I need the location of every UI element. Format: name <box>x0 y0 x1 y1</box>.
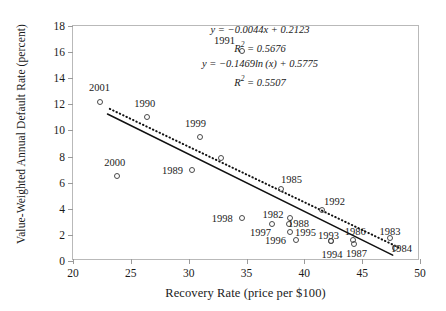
data-point-1989 <box>189 167 195 173</box>
equation-line-2: R2 = 0.5676 <box>185 37 335 56</box>
x-tick-label-20: 20 <box>67 267 79 279</box>
data-point-1996 <box>293 237 299 243</box>
x-tick-label-35: 35 <box>241 267 253 279</box>
data-point-label-1992: 1992 <box>324 195 345 206</box>
y-tick-2 <box>68 235 73 236</box>
y-tick-label-0: 0 <box>59 255 65 267</box>
data-point-1995 <box>287 229 293 235</box>
y-tick-label-2: 2 <box>59 229 65 241</box>
data-point-label-1995: 1995 <box>295 227 316 238</box>
x-tick-20 <box>73 259 74 264</box>
data-point-1987 <box>351 241 357 247</box>
y-tick-label-8: 8 <box>59 151 65 163</box>
data-point-label-1998: 1998 <box>212 212 233 223</box>
x-tick-30 <box>189 259 190 264</box>
y-tick-label-16: 16 <box>54 46 66 58</box>
y-tick-label-12: 12 <box>54 98 66 110</box>
equation-line-1: y = −0.0044x + 0.2123 <box>185 22 335 37</box>
equation-line-3: y = −0.1469ln (x) + 0.5775 <box>185 56 335 71</box>
data-point-1985 <box>278 186 284 192</box>
x-axis-title: Recovery Rate (price per $100) <box>72 286 419 301</box>
data-point-1994 <box>328 238 334 244</box>
x-tick-45 <box>362 259 363 264</box>
data-point-1990 <box>144 114 150 120</box>
data-point-label-1996: 1996 <box>265 235 286 246</box>
x-tick-35 <box>247 259 248 264</box>
x-tick-label-45: 45 <box>356 267 368 279</box>
equations-annotation: y = −0.0044x + 0.2123R2 = 0.5676y = −0.1… <box>185 22 335 89</box>
y-tick-label-4: 4 <box>59 203 65 215</box>
y-tick-label-6: 6 <box>59 177 65 189</box>
data-point-label-1994: 1994 <box>322 249 343 260</box>
x-tick-25 <box>131 259 132 264</box>
x-tick-label-25: 25 <box>125 267 137 279</box>
data-point-label-1986: 1986 <box>345 225 366 236</box>
y-tick-8 <box>68 157 73 158</box>
y-tick-label-14: 14 <box>54 72 66 84</box>
scatter-plot-figure: Value-Weighted Annual Default Rate (perc… <box>0 0 446 311</box>
data-point-label-1987: 1987 <box>346 248 367 259</box>
x-tick-label-50: 50 <box>414 267 426 279</box>
data-point-2001 <box>97 99 103 105</box>
y-tick-4 <box>68 209 73 210</box>
x-tick-50 <box>420 259 421 264</box>
y-tick-10 <box>68 130 73 131</box>
y-tick-18 <box>68 26 73 27</box>
data-point-label-1983: 1983 <box>379 225 400 236</box>
data-point-label-2000: 2000 <box>104 156 125 167</box>
data-point-label-1984: 1984 <box>391 242 412 253</box>
data-point-1999 <box>197 134 203 140</box>
y-axis-title: Value-Weighted Annual Default Rate (perc… <box>15 9 27 259</box>
data-point <box>218 155 224 161</box>
x-tick-label-40: 40 <box>299 267 311 279</box>
data-point-label-1989: 1989 <box>162 164 183 175</box>
data-point-label-2001: 2001 <box>89 82 110 93</box>
y-tick-label-18: 18 <box>54 20 66 32</box>
data-point-1992 <box>319 207 325 213</box>
data-point-label-1985: 1985 <box>281 173 302 184</box>
y-tick-14 <box>68 78 73 79</box>
data-point-2000 <box>114 173 120 179</box>
data-point-1998 <box>239 215 245 221</box>
x-tick-label-30: 30 <box>183 267 195 279</box>
y-tick-label-10: 10 <box>54 124 66 136</box>
equation-line-4: R2 = 0.5507 <box>185 71 335 90</box>
y-tick-16 <box>68 52 73 53</box>
y-tick-12 <box>68 104 73 105</box>
data-point-label-1982: 1982 <box>263 209 284 220</box>
data-point-label-1999: 1999 <box>185 117 206 128</box>
y-tick-6 <box>68 183 73 184</box>
x-tick-40 <box>304 259 305 264</box>
data-point-label-1990: 1990 <box>134 98 155 109</box>
